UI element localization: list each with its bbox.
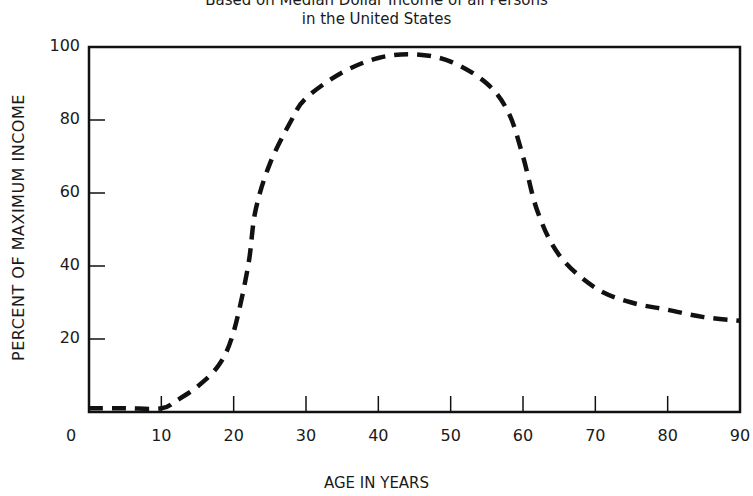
plot-area <box>0 0 753 496</box>
tick-marks <box>89 120 668 412</box>
income-curve <box>89 54 740 409</box>
plot-frame <box>89 47 740 412</box>
